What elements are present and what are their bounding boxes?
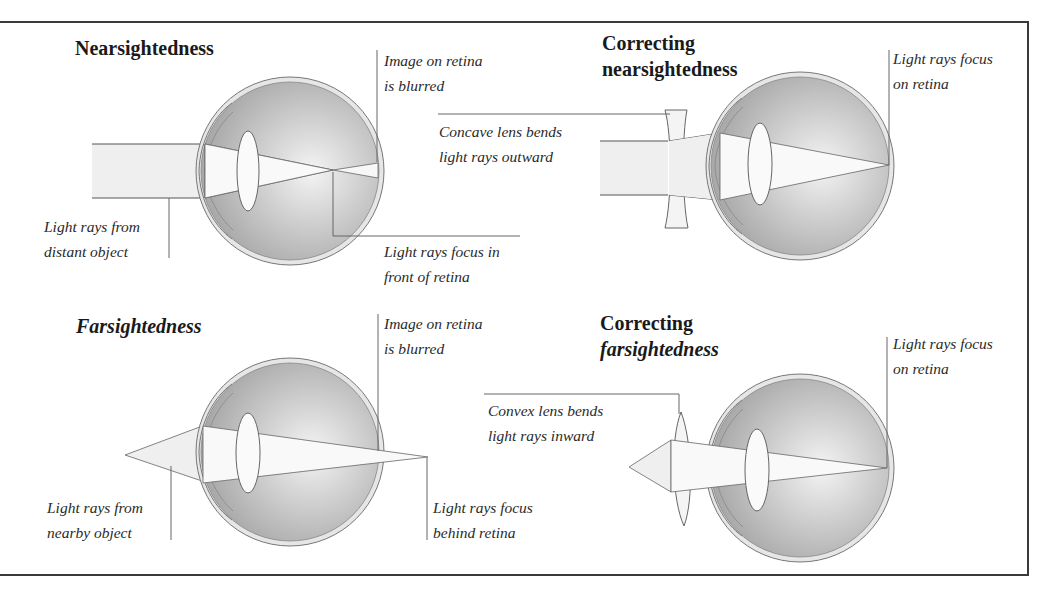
- label-line: Light rays from: [44, 214, 140, 239]
- label-light-source-distant: Light rays from distant object: [44, 214, 140, 264]
- title-farsightedness: Farsightedness: [76, 313, 202, 339]
- label-line: Light rays from: [47, 495, 143, 520]
- farsighted-eye: [125, 358, 428, 546]
- label-line: Image on retina: [384, 48, 482, 73]
- label-line: Convex lens bends: [488, 398, 603, 423]
- label-line: Light rays focus: [433, 495, 533, 520]
- label-line: front of retina: [384, 264, 500, 289]
- label-focus-behind: Light rays focus behind retina: [433, 495, 533, 545]
- label-image-blurred: Image on retina is blurred: [384, 48, 482, 98]
- label-line: is blurred: [384, 336, 482, 361]
- label-light-source-nearby: Light rays from nearby object: [47, 495, 143, 545]
- label-focus-on-retina: Light rays focus on retina: [893, 331, 993, 381]
- title-line: nearsightedness: [602, 56, 738, 82]
- label-line: Image on retina: [384, 311, 482, 336]
- label-line: is blurred: [384, 73, 482, 98]
- label-line: nearby object: [47, 520, 143, 545]
- corrected-farsighted-eye: [629, 374, 894, 562]
- label-focus-on-retina: Light rays focus on retina: [893, 46, 993, 96]
- label-focus-in-front: Light rays focus in front of retina: [384, 239, 500, 289]
- label-line: on retina: [893, 71, 993, 96]
- label-line: Concave lens bends: [439, 119, 562, 144]
- label-line: on retina: [893, 356, 993, 381]
- title-line: Correcting: [602, 30, 738, 56]
- corrected-nearsighted-eye: [600, 72, 894, 260]
- label-convex-lens: Convex lens bends light rays inward: [488, 398, 603, 448]
- title-correcting-nearsightedness: Correcting nearsightedness: [602, 30, 738, 82]
- label-line: Light rays focus: [893, 46, 993, 71]
- label-concave-lens: Concave lens bends light rays outward: [439, 119, 562, 169]
- title-correcting-farsightedness: Correcting farsightedness: [600, 310, 719, 362]
- label-line: light rays inward: [488, 423, 603, 448]
- label-line: behind retina: [433, 520, 533, 545]
- label-line: Light rays focus in: [384, 239, 500, 264]
- label-line: light rays outward: [439, 144, 562, 169]
- title-line: farsightedness: [600, 336, 719, 362]
- title-nearsightedness: Nearsightedness: [75, 35, 214, 61]
- label-line: Light rays focus: [893, 331, 993, 356]
- label-image-blurred: Image on retina is blurred: [384, 311, 482, 361]
- label-line: distant object: [44, 239, 140, 264]
- title-line: Correcting: [600, 310, 719, 336]
